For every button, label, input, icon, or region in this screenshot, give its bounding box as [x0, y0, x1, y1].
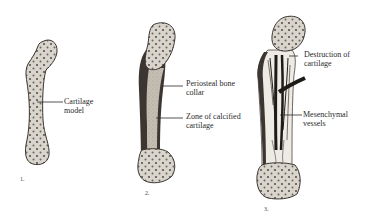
epiphysis-bottom: [138, 149, 175, 183]
stage-number-3: 3.: [264, 206, 269, 212]
epiphysis-top: [272, 16, 305, 51]
ossification-diagram: Cartilage model 1. Periosteal bone colla…: [0, 0, 369, 222]
epiphysis-top: [145, 23, 175, 70]
label-mesenchymal-vessels: Mesenchymal vessels: [303, 110, 348, 128]
stage-1-cartilage-model: [25, 40, 63, 165]
label-line: cartilage: [186, 121, 241, 130]
stage-2-bone-collar: [138, 23, 183, 183]
label-zone-calcified-cartilage: Zone of calcified cartilage: [186, 112, 241, 130]
stage-number-1: 1.: [20, 176, 25, 182]
label-line: Mesenchymal: [303, 110, 348, 119]
epiphysis-bottom: [257, 163, 300, 199]
stage-3-vascular-invasion: [257, 16, 305, 199]
label-line: cartilage: [304, 59, 350, 68]
label-cartilage-model: Cartilage model: [64, 97, 93, 115]
label-line: Cartilage: [64, 97, 93, 106]
label-line: vessels: [303, 119, 348, 128]
label-destruction-of-cartilage: Destruction of cartilage: [304, 50, 350, 68]
label-line: model: [64, 106, 93, 115]
label-line: Destruction of: [304, 50, 350, 59]
stage-number-2: 2.: [145, 190, 150, 196]
label-line: collar: [186, 88, 235, 97]
label-line: Zone of calcified: [186, 112, 241, 121]
label-line: Periosteal bone: [186, 79, 235, 88]
label-periosteal-bone-collar: Periosteal bone collar: [186, 79, 235, 97]
